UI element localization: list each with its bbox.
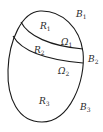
label-b3: B3 (79, 102, 91, 113)
label-r3: R3 (38, 96, 50, 107)
label-omega1: Ω1 (60, 37, 72, 48)
label-b1: B1 (75, 9, 86, 20)
label-omega2: Ω2 (57, 66, 69, 77)
label-b2: B2 (87, 54, 99, 65)
interface-omega-1 (21, 22, 83, 49)
domain-diagram: R1 B1 Ω1 R2 B2 Ω2 R3 B3 (0, 0, 103, 132)
label-r1: R1 (39, 21, 51, 32)
interface-omega-2 (13, 36, 83, 63)
label-r2: R2 (33, 45, 45, 56)
